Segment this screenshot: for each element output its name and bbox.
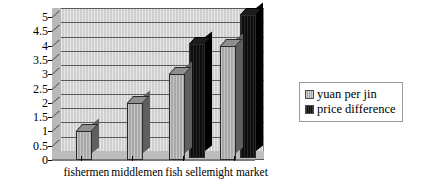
- bar-side-face: [205, 31, 212, 151]
- bar-side-face: [256, 3, 263, 151]
- bar-front-face: [76, 131, 92, 160]
- x-tick-mark: [183, 156, 184, 161]
- bar-yuan-per-jin: [169, 74, 185, 160]
- bar-yuan-per-jin: [76, 131, 92, 160]
- legend: yuan per jinprice difference: [299, 82, 403, 122]
- bar-yuan-per-jin: [127, 103, 143, 160]
- legend-swatch-icon: [305, 105, 314, 114]
- x-tick-label: night market: [209, 166, 269, 178]
- bar-chart: 00.511.522.533.544.55 fishermenmiddlemen…: [0, 0, 425, 196]
- bar-side-face: [236, 33, 243, 153]
- bar-front-face: [127, 103, 143, 160]
- plot-area: [52, 8, 272, 160]
- legend-label: yuan per jin: [317, 88, 377, 101]
- x-tick-mark: [132, 156, 133, 161]
- y-tick-label: 2.5: [33, 84, 48, 94]
- x-tick-mark: [81, 156, 82, 161]
- bars-layer: [52, 8, 272, 160]
- legend-swatch-icon: [305, 90, 314, 99]
- y-tick-label: 0.5: [33, 141, 48, 151]
- x-axis: fishermenmiddlemenfish sellernight marke…: [52, 162, 277, 196]
- bar-yuan-per-jin: [220, 46, 236, 160]
- legend-item: price difference: [305, 102, 396, 117]
- y-tick-label: 3.5: [33, 55, 48, 65]
- legend-item: yuan per jin: [305, 87, 396, 102]
- y-tick-label: 1.5: [33, 112, 48, 122]
- y-axis: 00.511.522.533.544.55: [18, 10, 52, 160]
- bar-front-face: [169, 74, 185, 160]
- x-tick-mark: [234, 156, 235, 161]
- y-tick-label: 4.5: [33, 26, 48, 36]
- legend-label: price difference: [317, 103, 396, 116]
- bar-side-face: [185, 62, 192, 153]
- bar-front-face: [220, 46, 236, 160]
